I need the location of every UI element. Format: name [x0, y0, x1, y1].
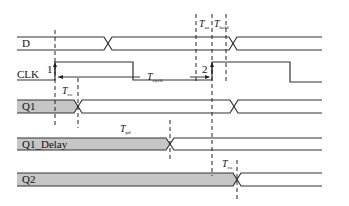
signal-q2: Q2	[17, 173, 322, 186]
reference-lines	[55, 14, 237, 200]
t-hold-label: Thold	[214, 18, 229, 30]
signal-q1: Q1	[17, 100, 322, 113]
signal-label-d: D	[22, 37, 30, 49]
signal-label-q2: Q2	[22, 173, 35, 185]
t-su-label: Tsu	[199, 18, 210, 30]
signal-label-q1: Q1	[22, 100, 35, 112]
signal-label-clk: CLK	[17, 68, 39, 80]
t-cycle-annotation: Tcycle	[58, 71, 210, 83]
t-co-1-label: Tco	[62, 85, 73, 97]
t-pd-label: Tpd	[120, 123, 131, 135]
signal-d: D	[17, 37, 322, 50]
signal-clk: CLK 1 2	[17, 62, 322, 82]
edge-marker-1: 1	[47, 63, 53, 75]
t-cycle-right-arrowhead-icon	[205, 75, 210, 79]
t-co-2-label: Tco	[222, 158, 233, 170]
edge-marker-2: 2	[202, 63, 208, 75]
timing-diagram: D CLK 1 2 Tcycle Q1 Q1_Delay	[0, 0, 349, 206]
t-cycle-left-arrowhead-icon	[58, 75, 63, 79]
signal-label-q1-delay: Q1_Delay	[22, 138, 68, 150]
t-cycle-label: Tcycle	[147, 71, 164, 83]
